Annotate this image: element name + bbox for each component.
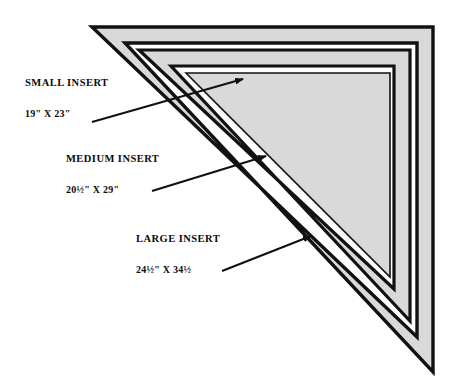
small-insert-label: SMALL INSERT 19" X 23" — [25, 76, 109, 120]
large-insert-label: LARGE INSERT 24½" X 34½ — [136, 232, 220, 276]
large-insert-dimensions: 24½" X 34½ — [136, 263, 220, 276]
medium-insert-title: MEDIUM INSERT — [66, 152, 159, 165]
small-insert-title: SMALL INSERT — [25, 76, 109, 89]
small-insert-dimensions: 19" X 23" — [25, 107, 109, 120]
nested-triangles-svg — [0, 0, 457, 392]
large-insert-title: LARGE INSERT — [136, 232, 220, 245]
large-insert-leader-arrow — [222, 236, 311, 271]
diagram-canvas: SMALL INSERT 19" X 23" MEDIUM INSERT 20½… — [0, 0, 457, 392]
medium-insert-dimensions: 20½" X 29" — [66, 183, 159, 196]
medium-insert-label: MEDIUM INSERT 20½" X 29" — [66, 152, 159, 196]
